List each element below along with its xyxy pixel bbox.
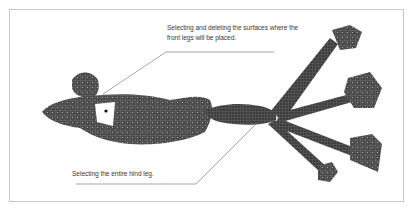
toe-block-3 [350, 134, 382, 172]
callout-front-legs-line2: front legs will be placed. [167, 33, 317, 43]
mesh-body [42, 73, 276, 145]
callout-hind-leg: Selecting the entire hind leg. [72, 169, 222, 179]
callout-front-legs-line1: Selecting and deleting the surfaces wher… [167, 23, 317, 33]
mesh-hind-leg [268, 25, 382, 182]
leader-line-front-legs [103, 52, 274, 94]
toe-block-1 [332, 25, 362, 50]
callout-hind-leg-line1: Selecting the entire hind leg. [72, 169, 222, 179]
callout-front-legs: Selecting and deleting the surfaces wher… [167, 23, 317, 43]
